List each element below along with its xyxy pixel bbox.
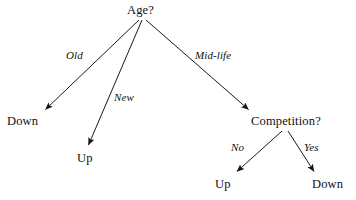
node-competition: Competition? — [251, 115, 321, 128]
decision-tree-diagram: Age? Competition? Down Up Up Down Old Ne… — [0, 0, 356, 200]
node-down-yes: Down — [312, 178, 343, 191]
edge-age-to-up-new — [89, 20, 143, 145]
edge-label-old: Old — [66, 50, 83, 61]
edge-label-no: No — [231, 142, 244, 153]
edge-label-yes: Yes — [304, 142, 319, 153]
edge-label-midlife: Mid-life — [195, 50, 231, 61]
tree-edges-canvas — [0, 0, 356, 200]
node-up-no: Up — [215, 178, 231, 191]
node-up-new: Up — [77, 152, 93, 165]
node-age: Age? — [127, 4, 154, 17]
edge-label-new: New — [114, 92, 134, 103]
edge-age-to-competition — [146, 20, 249, 110]
node-down-old: Down — [7, 115, 38, 128]
